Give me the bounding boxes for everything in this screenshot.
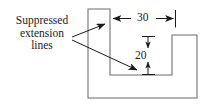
annotation-line-2: extension — [2, 27, 82, 40]
suppressed-extension-lines-label: Suppressed extension lines — [2, 14, 82, 52]
dimension-value-20: 20 — [135, 49, 147, 61]
dimension-value-30: 30 — [137, 11, 149, 23]
annotation-line-1: Suppressed — [2, 14, 82, 27]
annotation-line-3: lines — [2, 39, 82, 52]
